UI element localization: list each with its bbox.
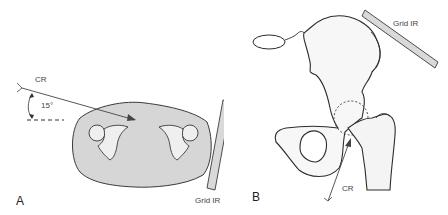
sacral-connector [285, 32, 304, 41]
panel-letter: B [252, 190, 260, 204]
right-femoral-head [182, 125, 198, 141]
left-femoral-head [89, 125, 105, 141]
grid-ir-label: Grid IR [393, 19, 418, 28]
angle-arrow-top-icon [29, 93, 34, 98]
grid-ir-label: Grid IR [195, 196, 220, 205]
obturator-foramen [300, 131, 327, 162]
central-ray-arrowhead-icon [345, 138, 351, 147]
angle-label: 15° [41, 101, 53, 110]
panel-letter: A [16, 194, 24, 208]
central-ray-label: CR [342, 184, 354, 193]
femur [348, 114, 395, 190]
sacrum-outline [253, 35, 285, 49]
hip-anterior-diagram [224, 0, 448, 215]
angle-arrow-bottom-icon [29, 114, 34, 119]
axial-pelvis-diagram [0, 0, 224, 215]
panel-a: CR 15° Grid IR A [0, 0, 224, 215]
central-ray-tail-icon [17, 83, 22, 92]
panel-b: Grid IR CR B [224, 0, 448, 215]
body-cross-section [73, 102, 212, 187]
central-ray-label: CR [35, 75, 47, 84]
